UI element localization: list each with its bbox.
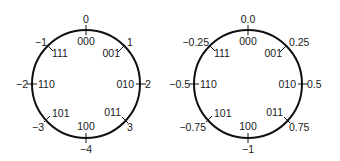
outer-label: 0 — [83, 13, 89, 25]
inner-label: 000 — [239, 35, 257, 47]
outer-label: −1 — [35, 36, 47, 48]
inner-label: 000 — [77, 35, 95, 47]
integer-wheel: 0 1 2 3 −4 −3 −2 −1 000 001 010 011 100 … — [16, 13, 151, 155]
inner-label: 011 — [104, 106, 121, 118]
outer-label: 1 — [127, 36, 133, 48]
inner-label: 001 — [102, 47, 120, 59]
inner-label: 011 — [266, 106, 283, 118]
number-wheels-figure: 0 1 2 3 −4 −3 −2 −1 000 001 010 011 100 … — [0, 0, 340, 161]
inner-label: 111 — [214, 47, 230, 59]
inner-label: 110 — [38, 78, 55, 90]
outer-label: −4 — [80, 143, 92, 155]
outer-label: 0.0 — [241, 13, 256, 25]
inner-label: 100 — [239, 120, 257, 132]
outer-label: 0.75 — [289, 121, 310, 133]
outer-label: −3 — [32, 121, 44, 133]
inner-label: 010 — [116, 78, 134, 90]
inner-label: 110 — [200, 78, 217, 90]
fraction-wheel: 0.0 0.25 0.5 0.75 −1 −0.75 −0.5 −0.25 00… — [169, 13, 321, 155]
inner-label: 100 — [77, 120, 95, 132]
outer-label: 2 — [145, 78, 151, 90]
inner-label: 101 — [52, 107, 70, 119]
outer-label: −0.5 — [169, 78, 190, 90]
outer-label: −2 — [16, 78, 28, 90]
outer-label: 0.25 — [289, 36, 310, 48]
outer-label: −1 — [242, 143, 254, 155]
outer-label: 0.5 — [307, 78, 322, 90]
inner-label: 111 — [52, 47, 68, 59]
inner-label: 010 — [278, 78, 296, 90]
outer-label: 3 — [127, 121, 133, 133]
outer-label: −0.25 — [182, 36, 209, 48]
inner-label: 001 — [264, 47, 282, 59]
inner-label: 101 — [214, 107, 232, 119]
outer-label: −0.75 — [179, 121, 206, 133]
